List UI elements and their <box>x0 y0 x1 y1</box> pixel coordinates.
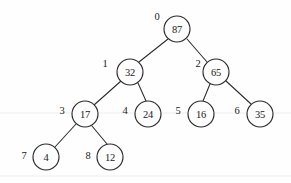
tree-edge-n1-n3 <box>94 81 121 105</box>
tree-edges-group <box>55 39 251 147</box>
index-label-2: 2 <box>195 58 200 69</box>
tree-node-8[interactable]: 12 <box>97 144 123 170</box>
tree-edge-n0-n1 <box>139 39 168 62</box>
node-value-2: 65 <box>211 67 221 78</box>
tree-edge-n2-n6 <box>226 81 251 104</box>
tree-node-7[interactable]: 4 <box>33 144 59 170</box>
tree-edge-n2-n5 <box>203 84 210 101</box>
index-label-8: 8 <box>85 150 90 161</box>
binary-tree-figure: 87326517241635412 012345678 <box>0 0 291 183</box>
index-label-0: 0 <box>154 11 159 22</box>
tree-node-5[interactable]: 16 <box>188 101 214 127</box>
node-value-6: 35 <box>255 109 265 120</box>
node-value-1: 32 <box>125 67 135 78</box>
tree-node-6[interactable]: 35 <box>247 101 273 127</box>
tree-edge-n3-n8 <box>92 126 107 144</box>
index-label-3: 3 <box>59 105 64 116</box>
node-value-4: 24 <box>143 109 154 120</box>
tree-node-1[interactable]: 32 <box>117 59 143 85</box>
tree-node-0[interactable]: 87 <box>164 16 190 42</box>
tree-node-2[interactable]: 65 <box>203 59 229 85</box>
index-label-7: 7 <box>21 150 26 161</box>
index-label-5: 5 <box>175 105 180 116</box>
index-label-6: 6 <box>234 105 239 116</box>
tree-node-3[interactable]: 17 <box>72 101 98 127</box>
tree-diagram-canvas: 87326517241635412 012345678 <box>0 0 291 183</box>
node-value-0: 87 <box>172 24 182 35</box>
tree-node-4[interactable]: 24 <box>135 101 161 127</box>
node-value-8: 12 <box>105 152 115 163</box>
index-label-1: 1 <box>102 58 107 69</box>
tree-nodes-group: 87326517241635412 <box>33 16 273 170</box>
node-value-3: 17 <box>80 109 90 120</box>
node-value-5: 16 <box>196 109 206 120</box>
index-label-4: 4 <box>122 105 128 116</box>
tree-edge-n3-n7 <box>55 124 76 147</box>
tree-edge-n1-n4 <box>138 83 146 101</box>
